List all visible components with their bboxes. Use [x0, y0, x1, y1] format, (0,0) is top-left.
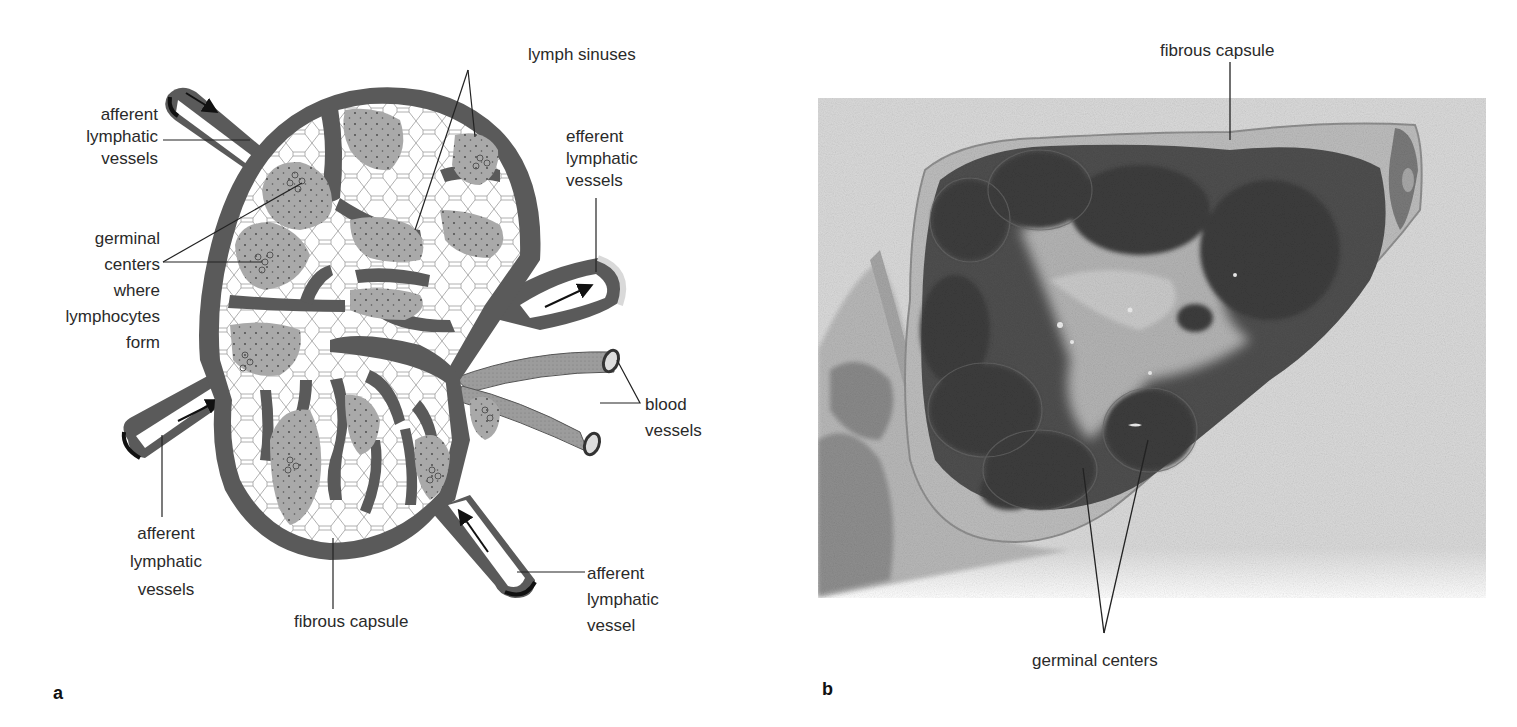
node-body — [199, 87, 541, 560]
figure: lymph sinuses afferent lymphatic vessels… — [0, 0, 1517, 727]
label-efferent-lymphatic-vessels: efferent lymphatic vessels — [566, 126, 638, 192]
label-afferent-lymphatic-vessels-top: afferent lymphatic vessels — [66, 104, 158, 170]
panel-letter-b: b — [822, 679, 833, 700]
label-lymph-sinuses: lymph sinuses — [528, 44, 636, 66]
label-afferent-lymphatic-vessels-left: afferent lymphatic vessels — [118, 520, 214, 604]
panel-letter-a: a — [53, 683, 63, 704]
label-fibrous-capsule-a: fibrous capsule — [294, 611, 408, 633]
label-germinal-centers: germinal centers where lymphocytes form — [40, 226, 160, 356]
afferent-vessel-bottom — [430, 495, 535, 598]
label-fibrous-capsule-b: fibrous capsule — [1160, 40, 1274, 62]
label-germinal-centers-b: germinal centers — [1032, 650, 1158, 672]
label-blood-vessels: blood vessels — [645, 392, 702, 444]
lymph-node-micrograph — [810, 80, 1510, 640]
label-afferent-lymphatic-vessel-bottom: afferent lymphatic vessel — [587, 561, 659, 639]
